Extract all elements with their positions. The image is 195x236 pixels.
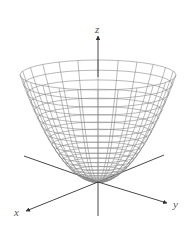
surface-meridian xyxy=(30,68,98,183)
paraboloid-surface xyxy=(20,60,176,183)
paraboloid-figure xyxy=(0,0,195,236)
z-axis-label: z xyxy=(95,24,99,35)
x-axis-label: x xyxy=(14,207,19,218)
surface-meridian xyxy=(98,86,153,183)
x-axis xyxy=(26,182,98,211)
y-axis-label: y xyxy=(173,199,178,210)
y-axis xyxy=(98,182,167,203)
surface-meridian xyxy=(43,86,98,183)
surface-meridian xyxy=(98,68,166,183)
